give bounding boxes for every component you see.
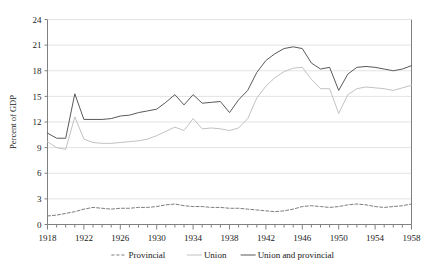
x-tick-label: 1946 (293, 233, 312, 243)
x-tick-label: 1950 (330, 233, 349, 243)
y-tick-label: 0 (37, 220, 42, 230)
x-tick-label: 1934 (184, 233, 203, 243)
chart-background (0, 0, 429, 274)
x-tick-label: 1942 (257, 233, 275, 243)
x-tick-label: 1954 (366, 233, 385, 243)
x-tick-label: 1930 (148, 233, 167, 243)
y-tick-label: 18 (33, 66, 43, 76)
chart-legend: ProvincialUnionUnion and provincial (111, 250, 334, 260)
y-tick-label: 12 (33, 117, 42, 127)
x-tick-label: 1922 (75, 233, 93, 243)
x-tick-label: 1918 (39, 233, 58, 243)
y-tick-label: 24 (33, 15, 43, 25)
y-tick-label: 21 (33, 40, 42, 50)
legend-label-union-and-provincial: Union and provincial (258, 250, 335, 260)
x-tick-label: 1926 (111, 233, 130, 243)
y-axis-title: Percent of GDP (8, 95, 18, 149)
y-tick-label: 9 (37, 143, 42, 153)
y-tick-label: 15 (33, 92, 43, 102)
x-tick-label: 1958 (403, 233, 422, 243)
line-chart: 03691215182124 1918192219261930193419381… (0, 0, 429, 274)
x-tick-label: 1938 (221, 233, 240, 243)
legend-label-provincial: Provincial (128, 250, 165, 260)
y-tick-label: 6 (37, 168, 42, 178)
chart-figure: 03691215182124 1918192219261930193419381… (0, 0, 429, 274)
legend-label-union: Union (204, 250, 227, 260)
y-tick-label: 3 (37, 194, 42, 204)
